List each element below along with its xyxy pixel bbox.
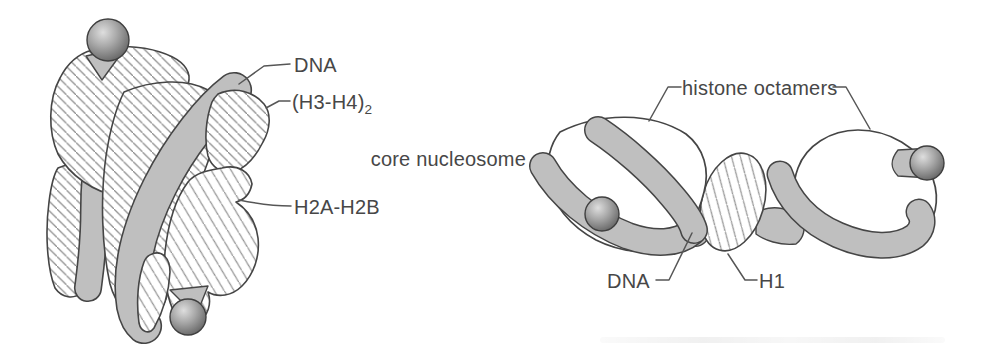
dna-end-sphere-right-nucleosome: [910, 146, 944, 180]
dna-end-sphere-bottom: [170, 299, 206, 335]
label-dna-left: DNA: [294, 53, 337, 77]
nucleosome-left: [543, 117, 706, 251]
label-core-nucleosome: core nucleosome: [368, 147, 526, 171]
page-scan-artifact: [600, 337, 945, 343]
label-h3h4: (H3-H4)2: [292, 90, 372, 122]
nucleosome-artwork: [0, 0, 996, 346]
histone-blob-bottom-point: [138, 253, 170, 332]
nucleosome-right: [780, 130, 944, 253]
dna-end-sphere-left-nucleosome: [585, 197, 619, 231]
dna-end-sphere-top: [87, 19, 129, 61]
label-histone-octamers: histone octamers: [682, 76, 838, 100]
nucleosome-figure: DNA (H3-H4)2 H2A-H2B core nucleosome his…: [0, 0, 996, 346]
leader-line-histone-octamers-right: [833, 87, 870, 129]
label-dna-right: DNA: [607, 269, 650, 293]
label-h3h4-main: (H3-H4): [292, 91, 365, 113]
nucleosome-chain: [543, 87, 944, 280]
histone-blob-h3h4: [206, 90, 269, 172]
label-h2a-h2b: H2A-H2B: [294, 195, 380, 219]
label-h3h4-subscript: 2: [365, 102, 373, 117]
leader-line-h1: [728, 254, 757, 280]
label-h1: H1: [759, 269, 785, 293]
leader-line-h2a-h2b: [239, 200, 291, 206]
core-nucleosome-detail: [47, 19, 291, 335]
leader-line-h3h4: [266, 101, 290, 108]
leader-line-histone-octamers-left: [649, 87, 681, 121]
